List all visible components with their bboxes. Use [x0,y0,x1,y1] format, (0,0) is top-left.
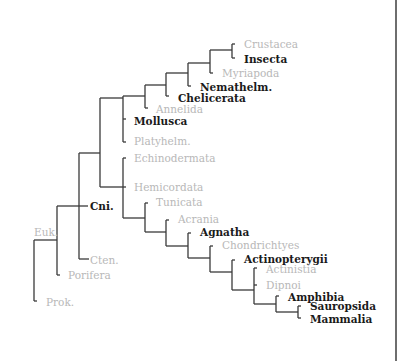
taxon-label-dipnoi: Dipnoi [266,279,301,291]
taxon-label-mammalia: Mammalia [310,313,372,325]
root-node [34,240,57,301]
taxon-label-insecta: Insecta [244,53,287,65]
taxon-label-cten: Cten. [90,254,119,266]
taxon-label-hemicordata: Hemicordata [134,181,203,193]
taxon-label-acrania: Acrania [178,213,219,225]
taxon-label-agnatha: Agnatha [200,226,249,238]
taxon-label-mollusca: Mollusca [134,115,187,127]
taxon-label-actinistia: Actinistia [266,263,316,275]
taxon-label-annelida: Annelida [156,103,203,115]
taxon-label-echinodermata: Echinodermata [134,152,215,164]
taxon-label-myriapoda: Myriapoda [222,67,279,79]
taxon-label-crustacea: Crustacea [244,38,298,50]
taxon-label-platyhelm: Platyhelm. [134,135,190,147]
bilateria-node [100,98,123,187]
taxon-label-prok: Prok. [46,296,74,308]
eukaryote-node [57,206,79,275]
taxon-label-cni: Cni. [90,200,114,212]
taxon-label-chondrichtyes: Chondrichtyes [222,239,299,251]
taxon-label-porifera: Porifera [68,269,111,281]
taxon-label-sauropsida: Sauropsida [310,300,376,312]
taxon-label-euk: Euk. [34,226,58,238]
taxon-label-tunicata: Tunicata [156,196,203,208]
